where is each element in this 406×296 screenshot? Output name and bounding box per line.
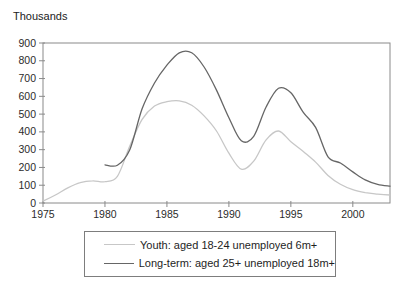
x-tick-label: 1995 [279, 208, 303, 220]
long-term-line-sample [104, 263, 134, 265]
legend-label-youth: Youth: aged 18-24 unemployed 6m+ [140, 239, 317, 251]
y-tick-label: 100 [18, 179, 36, 191]
series-line-youth [43, 101, 390, 202]
legend-item-long-term: Long-term: aged 25+ unemployed 18m+ [104, 257, 335, 269]
y-tick-label: 500 [18, 108, 36, 120]
y-tick-label: 700 [18, 72, 36, 84]
y-tick-label: 600 [18, 90, 36, 102]
legend-item-youth: Youth: aged 18-24 unemployed 6m+ [104, 239, 335, 251]
youth-line-sample [104, 244, 135, 246]
x-tick-label: 1990 [217, 208, 241, 220]
y-tick-label: 400 [18, 125, 36, 137]
y-tick-label: 900 [18, 37, 36, 49]
legend-label-long-term: Long-term: aged 25+ unemployed 18m+ [139, 257, 335, 269]
x-tick-label: 1985 [155, 208, 179, 220]
y-tick-label: 0 [30, 197, 36, 209]
y-tick-label: 800 [18, 54, 36, 66]
plot-frame [43, 43, 390, 203]
legend-box: Youth: aged 18-24 unemployed 6m+ Long-te… [84, 231, 336, 277]
series-line-long-term [105, 51, 390, 186]
y-tick-label: 300 [18, 143, 36, 155]
unemployment-line-chart-page: Thousands 010020030040050060070080090019… [0, 0, 406, 296]
x-tick-label: 1980 [93, 208, 117, 220]
x-tick-label: 1975 [31, 208, 55, 220]
x-tick-label: 2000 [341, 208, 365, 220]
y-tick-label: 200 [18, 161, 36, 173]
